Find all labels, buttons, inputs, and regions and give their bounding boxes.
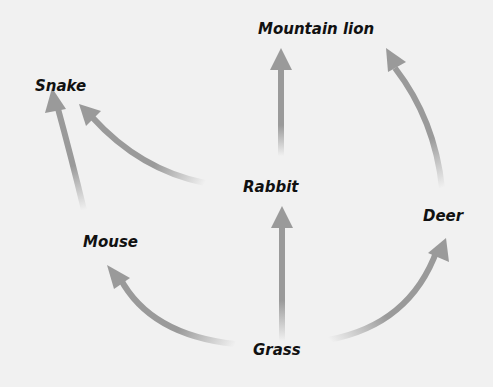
arrow-grass-to-mouse xyxy=(107,265,235,344)
node-mountain-lion: Mountain lion xyxy=(258,22,374,37)
node-grass: Grass xyxy=(253,343,301,358)
arrow-grass-to-rabbit xyxy=(271,206,293,341)
arrow-mouse-to-snake xyxy=(45,88,84,210)
arrow-grass-to-deer xyxy=(328,238,449,340)
node-snake: Snake xyxy=(35,79,86,94)
food-web-diagram: Mountain lion Snake Rabbit Mouse Deer Gr… xyxy=(0,0,493,387)
node-mouse: Mouse xyxy=(83,235,138,250)
arrow-deer-to-mountain-lion xyxy=(386,48,442,188)
arrow-rabbit-to-mountain-lion xyxy=(270,48,292,156)
arrow-rabbit-to-snake xyxy=(79,104,205,183)
node-deer: Deer xyxy=(423,209,463,224)
node-rabbit: Rabbit xyxy=(243,180,298,195)
